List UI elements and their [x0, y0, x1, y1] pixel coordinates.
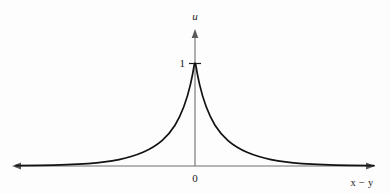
y-axis-unit-label: 1	[180, 57, 186, 69]
exponential-decay-plot: u 1 0 x − y	[0, 0, 391, 194]
x-axis-title: x − y	[350, 177, 374, 188]
origin-label: 0	[192, 172, 198, 184]
figure-container: u 1 0 x − y	[0, 0, 391, 194]
y-axis-top-arrow-icon	[192, 29, 199, 38]
y-axis-title: u	[192, 10, 198, 22]
